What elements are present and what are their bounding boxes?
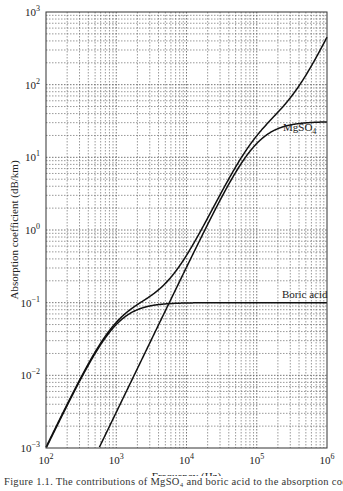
y-tick-label: 10−3	[20, 440, 40, 454]
grid-lines	[46, 12, 327, 448]
y-tick-label: 10−1	[20, 295, 40, 309]
y-axis-tick-labels: 10−310−210−1100101102103	[20, 4, 40, 454]
x-tick-label: 105	[249, 452, 264, 466]
absorption-chart: 102103104105106 10−310−210−1100101102103…	[0, 0, 343, 476]
mgso4-curve	[99, 122, 327, 447]
y-tick-label: 100	[25, 222, 40, 236]
y-axis-title: Absorption coefficient (dB/km)	[8, 160, 21, 299]
x-tick-label: 102	[39, 452, 54, 466]
figure-caption: Figure 1.1. The contributions of MgSO₄ a…	[4, 476, 343, 487]
y-tick-label: 102	[25, 77, 40, 91]
x-tick-label: 103	[109, 452, 124, 466]
mgso4-label: MgSO4	[283, 121, 316, 136]
x-axis-tick-labels: 102103104105106	[39, 452, 335, 466]
curve-labels: MgSO4Boric acid	[282, 121, 328, 300]
y-tick-label: 103	[25, 4, 40, 18]
curves	[46, 37, 327, 447]
x-tick-label: 106	[320, 452, 335, 466]
x-tick-label: 104	[179, 452, 194, 466]
y-tick-label: 10−2	[20, 367, 40, 381]
total-curve	[46, 37, 327, 447]
y-tick-label: 101	[25, 149, 40, 163]
boric-acid-label: Boric acid	[282, 288, 328, 300]
